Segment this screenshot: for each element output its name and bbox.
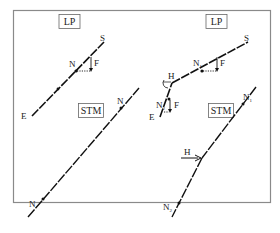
panel-stm-left: STM N N [28, 88, 139, 217]
lp-left-title: LP [64, 16, 76, 27]
stm-left-label-n-bottom: N [29, 199, 36, 209]
lp-right-title: LP [211, 16, 223, 27]
lp-right-label-f-upper: F [220, 58, 225, 68]
stm-right-node-n2 [178, 202, 181, 205]
lp-right-label-s: S [244, 33, 249, 43]
panel-lp-right: LP S E N1 F H N2 F [149, 15, 249, 123]
lp-left-label-f: F [94, 58, 99, 68]
lp-right-label-h: H [168, 71, 175, 81]
lp-left-label-s: S [100, 33, 105, 43]
lp-left-label-n: N [69, 59, 76, 69]
lp-right-angle-arc-icon [163, 80, 168, 88]
lp-left-label-e: E [21, 111, 27, 121]
lp-right-label-n1: N1 [193, 58, 203, 69]
stm-right-label-h: H [184, 147, 191, 157]
diagram-canvas: LP S E N F LP S [0, 0, 280, 233]
stm-right-label-n2: N2 [163, 202, 173, 213]
lp-left-node-mid [57, 88, 60, 91]
stm-right-title: STM [211, 105, 232, 116]
stm-left-label-n-top: N [117, 96, 124, 106]
lp-right-force-lower-arrowhead-icon [168, 109, 172, 113]
lp-right-upper-line [172, 42, 248, 83]
stm-right-node-n1 [242, 103, 245, 106]
stm-left-title: STM [81, 105, 102, 116]
stm-right-lower-strut [172, 158, 202, 217]
lp-right-label-n2: N2 [156, 100, 166, 111]
lp-right-label-e: E [149, 112, 155, 122]
lp-right-label-f-lower: F [174, 100, 179, 110]
stm-left-node-bottom [42, 198, 45, 201]
stm-left-node-top [120, 107, 123, 110]
